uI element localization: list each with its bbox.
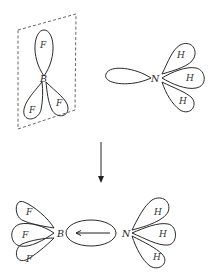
adduct-f-label-top: F — [25, 207, 33, 217]
bf3-molecule: F F F B — [18, 14, 76, 129]
reaction-arrow-down — [98, 142, 104, 183]
nh3-ligand-label-middle: H — [185, 73, 194, 83]
reaction-diagram: F F F B N H H H F F F B N — [0, 0, 215, 280]
nh3-lone-pair-lobe — [106, 68, 151, 84]
nh3-molecule: N H H H — [106, 43, 205, 111]
bf3-ligand-label-lower-right: F — [55, 98, 63, 108]
adduct-nitrogen-atom: N — [121, 228, 131, 239]
arrow-head-icon — [98, 176, 104, 183]
adduct-bf3-lobe-bottom — [16, 238, 54, 261]
nh3-central-atom: N — [150, 73, 160, 84]
adduct-nh3-lobe-top — [132, 198, 169, 230]
adduct-h-label-middle: H — [158, 229, 167, 239]
bf3-ligand-label-top: F — [39, 40, 47, 50]
adduct-f-label-middle: F — [21, 230, 29, 240]
bf3-central-atom: B — [39, 73, 47, 84]
adduct-boron-atom: B — [56, 228, 64, 239]
nh3-ligand-label-bottom: H — [178, 96, 187, 106]
adduct-nh3-lobe-middle — [132, 224, 176, 245]
adduct-f-label-bottom: F — [25, 254, 33, 264]
bf3-ligand-label-lower-left: F — [28, 105, 36, 115]
adduct-h-label-bottom: H — [152, 252, 161, 262]
nh3-ligand-label-top: H — [176, 50, 185, 60]
adduct-molecule: F F F B N H H H — [12, 198, 176, 268]
bf3-orbital-lobe-top — [35, 30, 53, 76]
adduct-h-label-top: H — [153, 207, 162, 217]
